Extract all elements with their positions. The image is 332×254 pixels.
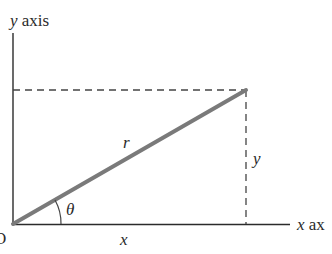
- y-axis-label-word: axis: [22, 11, 49, 30]
- x-axis-label: x ax: [297, 216, 325, 233]
- x-axis-label-var: x: [297, 215, 305, 234]
- y-component-label: y: [253, 150, 261, 167]
- y-axis-label-var: y: [10, 11, 18, 30]
- y-axis-label: y axis: [10, 12, 49, 29]
- radius-label: r: [123, 134, 130, 151]
- radius-vector: [13, 90, 246, 224]
- polar-coordinate-diagram: [0, 0, 332, 254]
- angle-label: θ: [66, 201, 74, 218]
- x-component-label: x: [120, 231, 128, 248]
- x-axis-label-word: ax: [309, 215, 325, 234]
- angle-arc: [55, 200, 61, 224]
- origin-label: O: [0, 230, 6, 247]
